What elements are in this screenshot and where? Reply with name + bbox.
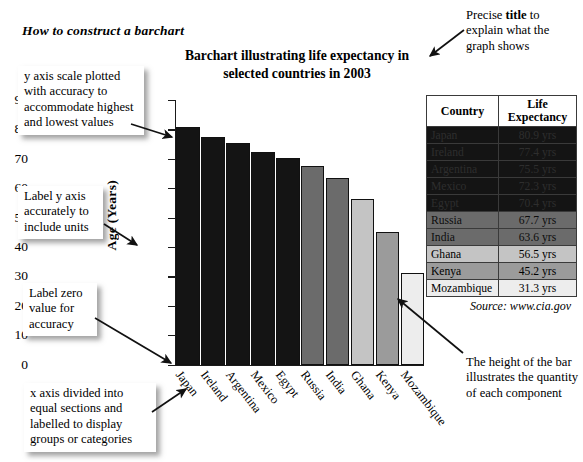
cell-life-expectancy: 70.4 yrs	[499, 195, 577, 212]
table-header-value: Life Expectancy	[499, 96, 577, 127]
y-tick-60	[168, 188, 175, 189]
y-tick-80	[168, 129, 175, 130]
cell-country: Russia	[427, 212, 499, 229]
cell-country: Japan	[427, 127, 499, 144]
cell-life-expectancy: 67.7 yrs	[499, 212, 577, 229]
cell-country: Ghana	[427, 246, 499, 263]
table-row: Egypt70.4 yrs	[427, 195, 577, 212]
bar-russia	[301, 166, 325, 365]
x-label-russia: Russia	[297, 368, 329, 403]
cell-life-expectancy: 31.3 yrs	[499, 280, 577, 297]
table-body: Japan80.9 yrsIreland77.4 yrsArgentina75.…	[427, 127, 577, 297]
bar-india	[326, 178, 350, 365]
bar-ireland	[201, 137, 225, 365]
table-row: Argentina75.5 yrs	[427, 161, 577, 178]
y-tick-label-40: 40	[15, 240, 29, 254]
annotation-y-label: Label y axis accurately to include units	[18, 186, 103, 239]
annotation-title-pre: Precise	[466, 8, 506, 22]
cell-life-expectancy: 45.2 yrs	[499, 263, 577, 280]
table-header-value-line2: Expectancy	[508, 110, 567, 124]
table-row: Ghana56.5 yrs	[427, 246, 577, 263]
y-tick-0	[168, 365, 175, 366]
cell-country: Ireland	[427, 144, 499, 161]
cell-country: India	[427, 229, 499, 246]
y-axis-title: Age (Years)	[104, 180, 120, 250]
x-label-ghana: Ghana	[347, 368, 379, 403]
cell-country: Mexico	[427, 178, 499, 195]
annotation-title-bold: title	[506, 8, 527, 22]
cell-country: Kenya	[427, 263, 499, 280]
table-row: Japan80.9 yrs	[427, 127, 577, 144]
cell-country: Egypt	[427, 195, 499, 212]
data-table-wrapper: Country Life Expectancy Japan80.9 yrsIre…	[426, 95, 577, 297]
bar-egypt	[276, 158, 300, 365]
chart-title: Barchart illustrating life expectancy in…	[166, 47, 428, 83]
y-tick-70	[168, 159, 175, 160]
cell-life-expectancy: 77.4 yrs	[499, 144, 577, 161]
bar-argentina	[226, 143, 250, 365]
annotation-title-note: Precise title to explain what the graph …	[466, 8, 578, 54]
bar-mozambique	[401, 273, 425, 365]
bar-japan	[176, 127, 200, 365]
y-tick-90	[168, 100, 175, 101]
bar-mexico	[251, 152, 275, 365]
worksheet-page: How to construct a barchart Barchart ill…	[0, 0, 583, 462]
table-header-row: Country Life Expectancy	[427, 96, 577, 127]
x-axis-category-labels: JapanIrelandArgentinaMexicoEgyptRussiaIn…	[175, 368, 435, 458]
cell-country: Argentina	[427, 161, 499, 178]
cell-life-expectancy: 72.3 yrs	[499, 178, 577, 195]
table-row: Mozambique31.3 yrs	[427, 280, 577, 297]
page-title: How to construct a barchart	[22, 23, 184, 39]
table-header-value-line1: Life	[527, 97, 548, 111]
x-label-mozambique: Mozambique	[397, 368, 449, 429]
y-tick-40	[168, 247, 175, 248]
annotation-x-axis: x axis divided into equal sections and l…	[24, 383, 156, 452]
annotation-bar-height: The height of the bar illustrates the qu…	[466, 355, 578, 401]
y-tick-10	[168, 335, 175, 336]
x-label-kenya: Kenya	[372, 368, 404, 403]
table-row: Ireland77.4 yrs	[427, 144, 577, 161]
plot-area	[175, 100, 424, 366]
cell-life-expectancy: 56.5 yrs	[499, 246, 577, 263]
cell-life-expectancy: 75.5 yrs	[499, 161, 577, 178]
y-tick-label-0: 0	[21, 358, 28, 372]
cell-country: Mozambique	[427, 280, 499, 297]
bar-kenya	[376, 232, 400, 365]
data-table: Country Life Expectancy Japan80.9 yrsIre…	[426, 95, 577, 297]
cell-life-expectancy: 80.9 yrs	[499, 127, 577, 144]
table-row: Mexico72.3 yrs	[427, 178, 577, 195]
table-row: India63.6 yrs	[427, 229, 577, 246]
y-tick-30	[168, 276, 175, 277]
y-tick-50	[168, 218, 175, 219]
cell-life-expectancy: 63.6 yrs	[499, 229, 577, 246]
y-tick-label-70: 70	[15, 152, 29, 166]
x-axis-line	[175, 365, 424, 366]
annotation-zero-value: Label zero value for accuracy	[23, 283, 97, 336]
source-caption: Source: www.cia.gov	[470, 299, 571, 314]
table-row: Kenya45.2 yrs	[427, 263, 577, 280]
y-tick-label-30: 30	[15, 270, 29, 284]
table-header-country: Country	[427, 96, 499, 127]
bar-ghana	[351, 199, 375, 365]
y-tick-20	[168, 306, 175, 307]
annotation-y-scale: y axis scale plotted with accuracy to ac…	[18, 66, 144, 135]
table-row: Russia67.7 yrs	[427, 212, 577, 229]
x-label-japan: Japan	[173, 368, 202, 399]
